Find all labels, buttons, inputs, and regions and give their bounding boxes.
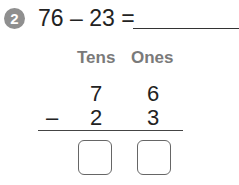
ones-answer-box[interactable] — [137, 140, 171, 175]
answer-blank-line[interactable] — [133, 28, 239, 29]
bottom-ones-digit: 3 — [143, 107, 163, 129]
top-ones-digit: 6 — [143, 83, 163, 105]
sum-line — [38, 130, 183, 131]
tens-answer-box[interactable] — [78, 140, 112, 175]
problem-number-badge: 2 — [4, 8, 25, 29]
top-tens-digit: 7 — [86, 83, 106, 105]
problem-expression: 76 – 23 = — [38, 5, 135, 31]
tens-header: Tens — [77, 48, 115, 68]
ones-header: Ones — [131, 48, 174, 68]
minus-sign: – — [46, 107, 58, 129]
bottom-tens-digit: 2 — [86, 107, 106, 129]
